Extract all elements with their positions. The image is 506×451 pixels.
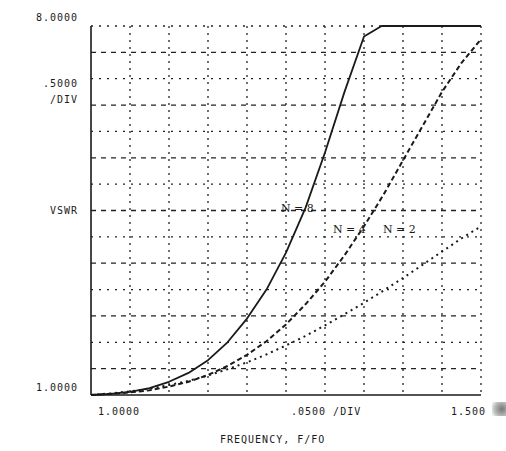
curve-label-n4: N = 4 bbox=[333, 223, 366, 236]
curve-label-n8: N = 8 bbox=[281, 202, 314, 215]
curve-label-n2: N = 2 bbox=[383, 223, 416, 236]
scan-shadow bbox=[492, 402, 506, 416]
